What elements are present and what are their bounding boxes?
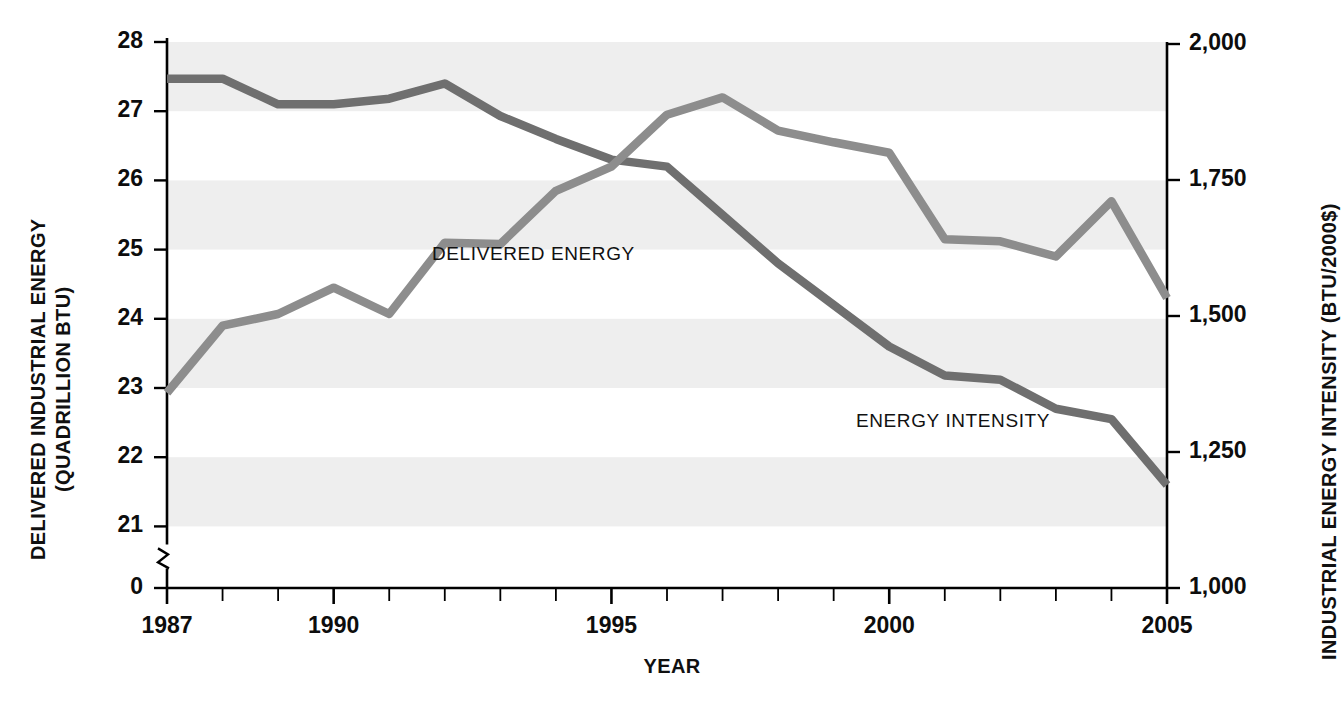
left-tick-label-25: 25	[0, 235, 143, 262]
axis-break-icon	[158, 548, 169, 568]
left-tick-label-23: 23	[0, 373, 143, 400]
x-tick-label-1987: 1987	[135, 612, 199, 639]
x-tick-label-2000: 2000	[857, 612, 921, 639]
left-tick-label-22: 22	[0, 442, 143, 469]
plot-area	[0, 0, 1344, 710]
right-tick-label-1750: 1,750	[1189, 165, 1247, 192]
series-label-delivered-energy: DELIVERED ENERGY	[432, 243, 635, 265]
left-tick-label-27: 27	[0, 96, 143, 123]
series-label-energy-intensity: ENERGY INTENSITY	[856, 410, 1050, 432]
band-3	[167, 457, 1167, 526]
right-tick-label-1000: 1,000	[1189, 573, 1247, 600]
left-tick-label-24: 24	[0, 304, 143, 331]
chart-container: DELIVERED INDUSTRIAL ENERGY (QUADRILLION…	[0, 0, 1344, 710]
x-tick-label-1995: 1995	[579, 612, 643, 639]
left-tick-label-21: 21	[0, 511, 143, 538]
right-tick-label-1500: 1,500	[1189, 301, 1247, 328]
x-tick-label-1990: 1990	[302, 612, 366, 639]
x-tick-label-2005: 2005	[1135, 612, 1199, 639]
left-tick-label-28: 28	[0, 27, 143, 54]
right-tick-label-2000: 2,000	[1189, 29, 1247, 56]
band-2	[167, 319, 1167, 388]
band-1	[167, 180, 1167, 249]
left-tick-label-0: 0	[0, 573, 143, 600]
right-tick-label-1250: 1,250	[1189, 437, 1247, 464]
left-tick-label-26: 26	[0, 165, 143, 192]
